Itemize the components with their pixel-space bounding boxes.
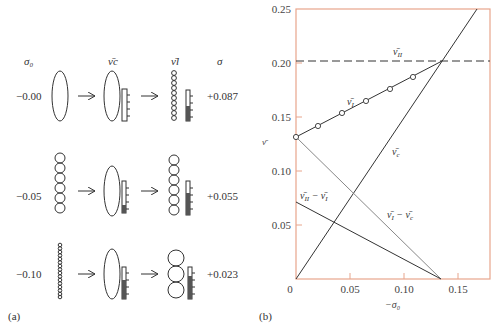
series-nu-I-minus-nu-c	[296, 137, 441, 279]
ytick-0.10: 0.10	[272, 165, 292, 177]
xtick-0.05: 0.05	[340, 283, 360, 295]
panel-b-chart: 0.25 0.20 0.15 0.10 0.05 0 0.05 0.10 0.1…	[0, 0, 500, 334]
series-nu-c	[296, 9, 477, 279]
ytick-0.05: 0.05	[272, 219, 292, 231]
ytick-0.20: 0.20	[272, 57, 292, 69]
xtick-0.15: 0.15	[448, 283, 468, 295]
xtick-0.10: 0.10	[394, 283, 414, 295]
annotation-nu-c: ν̄c	[392, 146, 400, 159]
annotation-nu-II: ν̄II	[393, 46, 403, 59]
ytick-0.25: 0.25	[272, 3, 292, 15]
series-nu-II-minus-nu-I	[296, 202, 441, 279]
y-axis-label: ν̄	[262, 137, 269, 147]
x-axis-label: −σ₀	[385, 299, 401, 310]
annotation-nu-I: ν̄I	[347, 96, 354, 109]
annotation-nu-I-minus-nu-c: ν̄I − ν̄c	[387, 209, 414, 222]
xtick-0: 0	[287, 283, 293, 295]
annotation-nu-II-minus-nu-I: ν̄II − ν̄I	[300, 190, 328, 203]
ytick-0.15: 0.15	[272, 111, 292, 123]
